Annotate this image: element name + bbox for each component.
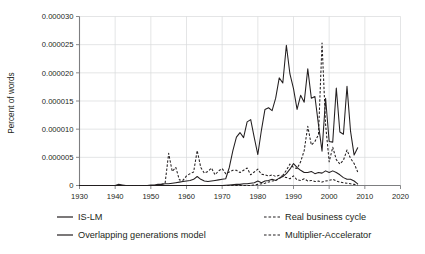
y-tick-label: 0.000030 <box>42 12 74 21</box>
legend-label: Multiplier-Accelerator <box>285 230 371 240</box>
y-tick-label: 0 <box>69 181 73 190</box>
y-axis-label: Percent of words <box>7 72 16 133</box>
x-tick-label: 1980 <box>249 192 266 201</box>
y-tick-label: 0.000020 <box>42 69 74 78</box>
x-tick-label: 1950 <box>142 192 159 201</box>
x-tick-label: 1990 <box>285 192 302 201</box>
x-tick-label: 1960 <box>178 192 195 201</box>
legend-label: IS-LM <box>78 212 103 222</box>
y-tick-label: 0.000025 <box>42 40 74 49</box>
line-chart: 00.0000050.0000100.0000150.0000200.00002… <box>0 0 425 254</box>
legend-label: Real business cycle <box>285 212 366 222</box>
x-tick-label: 1930 <box>71 192 88 201</box>
y-tick-label: 0.000010 <box>42 125 74 134</box>
legend-label: Overlapping generations model <box>78 230 206 240</box>
y-tick-label: 0.000015 <box>42 97 74 106</box>
x-tick-label: 2010 <box>356 192 373 201</box>
x-tick-label: 2020 <box>392 192 409 201</box>
chart-container: 00.0000050.0000100.0000150.0000200.00002… <box>0 0 425 254</box>
x-tick-label: 1940 <box>107 192 124 201</box>
x-tick-label: 2000 <box>321 192 338 201</box>
x-tick-label: 1970 <box>214 192 231 201</box>
y-tick-label: 0.000005 <box>42 153 74 162</box>
